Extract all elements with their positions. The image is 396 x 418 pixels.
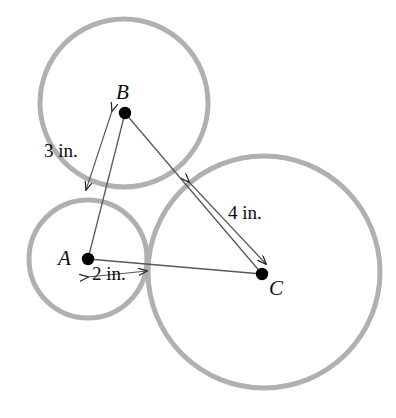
point-label-c: C <box>269 278 283 299</box>
point-label-a: A <box>58 248 71 269</box>
triangle-edges-group <box>88 113 262 274</box>
center-points-group <box>82 107 268 280</box>
geometry-figure: A B C 3 in. 2 in. 4 in. <box>0 0 396 418</box>
dimension-label-3in: 3 in. <box>44 141 78 160</box>
figure-canvas <box>0 0 396 418</box>
dimension-label-2in: 2 in. <box>92 264 126 283</box>
dimension-label-4in: 4 in. <box>228 203 262 222</box>
dimension-arrow-4in <box>189 182 266 264</box>
point-B <box>119 107 131 119</box>
point-C <box>256 268 268 280</box>
circles-group <box>29 19 380 388</box>
point-label-b: B <box>116 82 129 103</box>
